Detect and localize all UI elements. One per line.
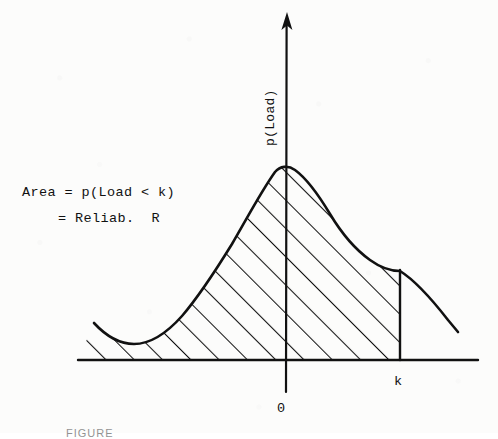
threshold-tick-label: k <box>394 374 402 389</box>
y-axis-label: p(Load) <box>263 89 278 146</box>
shaded-area-hatching <box>60 150 420 370</box>
y-axis-line <box>286 24 287 392</box>
annotation-line-2: = Reliab. R <box>58 211 160 226</box>
origin-tick-label: 0 <box>277 401 285 416</box>
figure-caption-cropped: FIGURE <box>66 427 114 439</box>
annotation-line-1: Area = p(Load < k) <box>22 185 175 200</box>
